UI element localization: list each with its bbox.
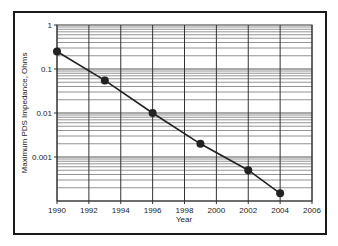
x-axis-ticks: 199019921994199619982000200220042006	[48, 206, 321, 215]
data-point-marker	[149, 109, 157, 117]
data-point-marker	[101, 76, 109, 84]
y-tick-label: 1	[48, 21, 53, 30]
y-axis-ticks: 10.10.010.001	[32, 21, 57, 162]
grid-lines	[57, 25, 312, 204]
y-tick-label: 0.1	[41, 65, 53, 74]
data-point-marker	[244, 166, 252, 174]
x-tick-label: 1996	[144, 206, 162, 215]
x-tick-label: 1992	[80, 206, 98, 215]
y-tick-label: 0.01	[36, 109, 52, 118]
x-tick-label: 2004	[271, 206, 289, 215]
x-tick-label: 2000	[207, 206, 225, 215]
x-tick-label: 2006	[303, 206, 321, 215]
x-tick-label: 1998	[176, 206, 194, 215]
data-point-marker	[53, 47, 61, 55]
y-tick-label: 0.001	[32, 153, 53, 162]
x-tick-label: 1990	[48, 206, 66, 215]
x-tick-label: 2002	[239, 206, 257, 215]
data-point-marker	[276, 189, 284, 197]
x-tick-label: 1994	[112, 206, 130, 215]
data-point-marker	[196, 140, 204, 148]
y-axis-label: Maximum PDS Impedance, Ohms	[20, 53, 29, 174]
impedance-chart: 199019921994199619982000200220042006 10.…	[0, 0, 338, 246]
x-axis-label: Year	[176, 215, 193, 224]
